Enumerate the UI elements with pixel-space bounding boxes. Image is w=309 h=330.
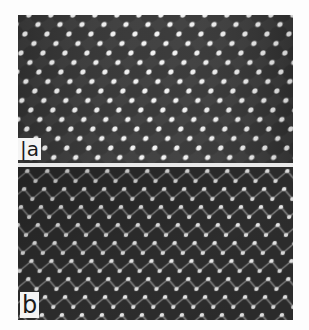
panel-label-a: |a [18,138,41,160]
panel-label-b: b [20,292,39,318]
micrograph-panel-a [18,15,293,163]
lattice-image-b [18,167,293,320]
micrograph-panel-b [18,167,293,320]
figure: |a b [0,0,309,330]
lattice-image-a [18,15,293,163]
